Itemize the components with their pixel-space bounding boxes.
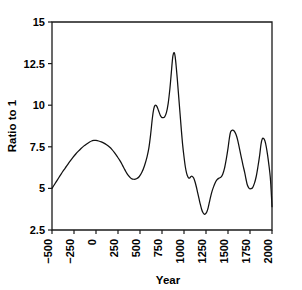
line-chart-svg: 2.557.51012.515 −500−2500250500750100012…: [0, 0, 302, 290]
x-tick-label: 1750: [240, 239, 252, 263]
x-tick-label: 750: [152, 239, 164, 257]
plot-frame: [52, 22, 272, 230]
y-tick-label: 5: [39, 182, 45, 194]
x-tick-label: 0: [86, 239, 98, 245]
y-tick-label: 15: [33, 16, 45, 28]
y-axis-tick-labels: 2.557.51012.515: [24, 16, 45, 236]
y-tick-label: 2.5: [30, 224, 45, 236]
x-axis-tick-labels: −500−250025050075010001250150017502000: [42, 239, 274, 264]
y-tick-label: 7.5: [30, 141, 45, 153]
x-axis-title: Year: [156, 274, 181, 286]
y-axis-title: Ratio to 1: [6, 99, 18, 152]
y-tick-label: 10: [33, 99, 45, 111]
x-tick-label: 250: [108, 239, 120, 257]
x-tick-label: 500: [130, 239, 142, 257]
y-tick-label: 12.5: [24, 58, 45, 70]
x-tick-label: 1500: [218, 239, 230, 263]
x-tick-label: −250: [64, 239, 76, 264]
x-tick-label: −500: [42, 239, 54, 264]
x-tick-label: 1000: [174, 239, 186, 263]
data-series-line: [52, 53, 272, 215]
x-tick-label: 1250: [196, 239, 208, 263]
chart-figure: 2.557.51012.515 −500−2500250500750100012…: [0, 0, 302, 290]
x-tick-label: 2000: [262, 239, 274, 263]
